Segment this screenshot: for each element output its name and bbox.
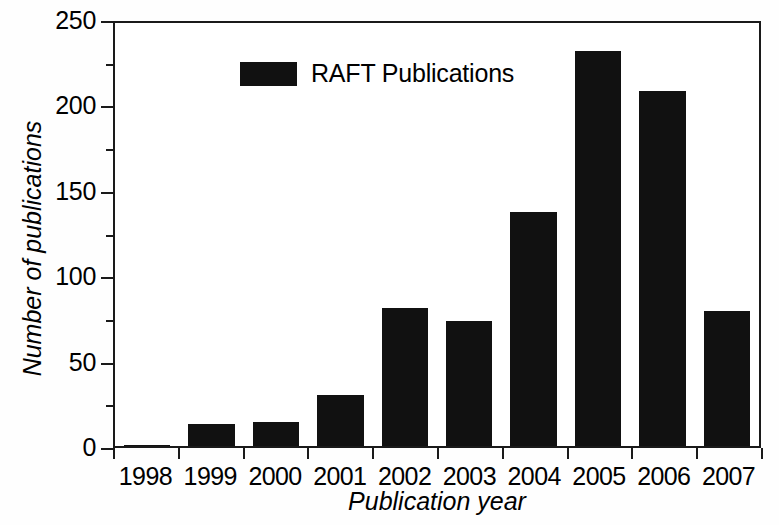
bar-slot xyxy=(179,23,243,446)
x-tick-3 xyxy=(307,448,309,459)
x-tick-1 xyxy=(178,448,180,459)
y-tick-label-100: 100 xyxy=(55,264,96,289)
bar-chart-figure: 050100150200250 Number of publications R… xyxy=(0,0,779,525)
bar-2004 xyxy=(510,212,556,446)
legend-swatch-raft-publications xyxy=(240,62,297,86)
bar-1999 xyxy=(188,424,234,446)
y-tick-minor-225 xyxy=(106,64,113,66)
y-tick-minor-125 xyxy=(106,235,113,237)
y-tick-minor-175 xyxy=(106,149,113,151)
x-tick-4 xyxy=(372,448,374,459)
x-tick-8 xyxy=(631,448,633,459)
bar-2002 xyxy=(382,308,428,446)
bar-2007 xyxy=(704,311,750,446)
x-tick-7 xyxy=(567,448,569,459)
bar-2005 xyxy=(575,51,621,446)
bar-slot xyxy=(695,23,759,446)
plot-area: RAFT Publications xyxy=(113,21,761,448)
y-tick-label-50: 50 xyxy=(69,350,96,375)
bar-2003 xyxy=(446,321,492,446)
y-tick-label-200: 200 xyxy=(55,93,96,118)
x-tick-9 xyxy=(696,448,698,459)
x-tick-0 xyxy=(113,448,115,459)
y-tick-label-250: 250 xyxy=(55,8,96,33)
y-tick-major-250 xyxy=(101,21,113,23)
y-tick-label-0: 0 xyxy=(82,435,96,460)
y-tick-minor-75 xyxy=(106,320,113,322)
y-tick-label-150: 150 xyxy=(55,179,96,204)
x-axis-title: Publication year xyxy=(113,487,761,516)
y-tick-minor-25 xyxy=(106,405,113,407)
y-tick-major-100 xyxy=(101,277,113,279)
legend: RAFT Publications xyxy=(240,61,514,86)
bar-2006 xyxy=(639,91,685,446)
x-tick-5 xyxy=(437,448,439,459)
y-tick-major-0 xyxy=(101,448,113,450)
bar-1998 xyxy=(124,445,170,446)
y-tick-major-200 xyxy=(101,106,113,108)
y-axis-title: Number of publications xyxy=(18,69,47,429)
bar-slot xyxy=(115,23,179,446)
y-tick-major-50 xyxy=(101,363,113,365)
x-tick-2 xyxy=(243,448,245,459)
y-tick-major-150 xyxy=(101,192,113,194)
x-tick-6 xyxy=(502,448,504,459)
bar-2000 xyxy=(253,422,299,446)
bar-2001 xyxy=(317,395,363,446)
bar-slot xyxy=(566,23,630,446)
x-tick-10 xyxy=(761,448,763,459)
bar-slot xyxy=(630,23,694,446)
legend-label-raft-publications: RAFT Publications xyxy=(311,61,514,86)
bar-slot xyxy=(244,23,308,446)
